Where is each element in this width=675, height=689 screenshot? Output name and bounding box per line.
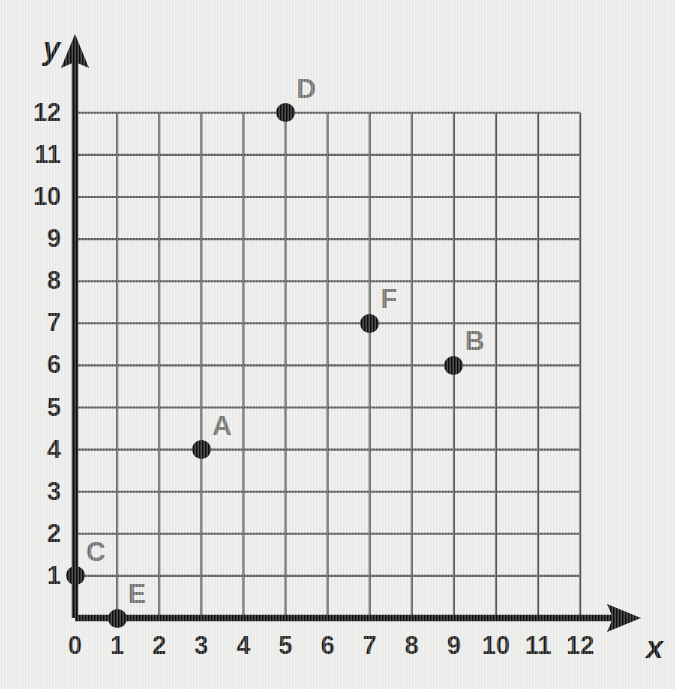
y-axis-tick-label: 8 <box>15 268 61 293</box>
x-axis-tick-label: 0 <box>52 633 98 658</box>
y-axis-tick-label: 10 <box>15 184 61 209</box>
x-axis-tick-label: 5 <box>263 633 309 658</box>
y-axis-tick-label: 5 <box>15 395 61 420</box>
data-point-label-f: F <box>381 286 398 313</box>
data-point-label-b: B <box>465 328 485 355</box>
x-axis-tick-label: 8 <box>389 633 435 658</box>
y-axis-tick-label: 4 <box>15 437 61 462</box>
data-point-a[interactable] <box>192 440 211 459</box>
data-point-f[interactable] <box>360 314 379 333</box>
data-point-label-c: C <box>86 539 106 566</box>
coordinate-plane: 0123456789101112123456789101112 ABCDEF y… <box>0 0 675 689</box>
y-axis-tick-label: 9 <box>15 226 61 251</box>
x-axis-tick-label: 1 <box>94 633 140 658</box>
x-axis-tick-label: 3 <box>178 633 224 658</box>
x-axis-tick-label: 4 <box>220 633 266 658</box>
x-axis-label: x <box>646 632 663 663</box>
y-axis-tick-label: 12 <box>15 100 61 125</box>
data-point-label-d: D <box>297 76 317 103</box>
coordinate-grid-svg <box>0 0 675 689</box>
x-axis-tick-label: 9 <box>431 633 477 658</box>
y-axis-label: y <box>43 33 60 64</box>
x-axis-tick-label: 7 <box>347 633 393 658</box>
data-point-c[interactable] <box>66 566 85 585</box>
data-point-label-e: E <box>128 581 146 608</box>
data-point-label-a: A <box>212 413 232 440</box>
x-axis-tick-label: 11 <box>515 633 561 658</box>
y-axis-tick-label: 6 <box>15 352 61 377</box>
y-axis-tick-label: 2 <box>15 521 61 546</box>
y-axis-tick-label: 11 <box>15 142 61 167</box>
x-axis-tick-label: 2 <box>136 633 182 658</box>
y-axis-tick-label: 1 <box>15 563 61 588</box>
x-axis-tick-label: 12 <box>557 633 603 658</box>
y-axis-tick-label: 7 <box>15 310 61 335</box>
x-axis-tick-label: 10 <box>473 633 519 658</box>
data-point-e[interactable] <box>108 609 127 628</box>
y-axis-tick-label: 3 <box>15 479 61 504</box>
x-axis-tick-label: 6 <box>305 633 351 658</box>
